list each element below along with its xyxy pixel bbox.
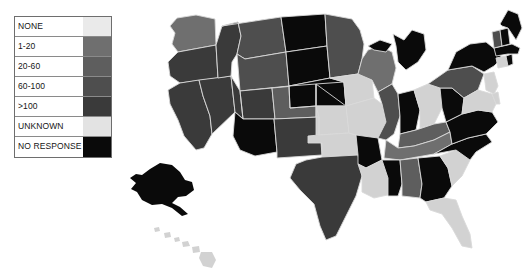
legend-row-none[interactable]: NONE	[15, 17, 111, 37]
state-KS[interactable]	[316, 106, 349, 135]
legend-row-1-20[interactable]: 1-20	[15, 37, 111, 57]
state-OR[interactable]	[168, 45, 218, 83]
state-HI[interactable]	[154, 227, 216, 268]
state-NH[interactable]	[500, 28, 510, 46]
legend-swatch-20-60	[83, 57, 111, 76]
legend-label-over-100: >100	[15, 97, 83, 116]
state-AZ[interactable]	[233, 112, 277, 156]
map-legend: NONE 1-20 20-60 60-100 >100 UNKNOWN NO R…	[14, 16, 112, 158]
state-AK[interactable]	[130, 163, 194, 216]
legend-label-60-100: 60-100	[15, 77, 83, 96]
legend-label-none: NONE	[15, 17, 83, 36]
legend-swatch-unknown	[83, 117, 111, 136]
legend-row-60-100[interactable]: 60-100	[15, 77, 111, 97]
state-NJ[interactable]	[484, 72, 498, 94]
legend-swatch-over-100	[83, 97, 111, 116]
legend-row-over-100[interactable]: >100	[15, 97, 111, 117]
legend-label-unknown: UNKNOWN	[15, 117, 83, 136]
legend-row-no-response[interactable]: NO RESPONSE	[15, 137, 111, 157]
legend-swatch-none	[83, 17, 111, 36]
legend-swatch-no-response	[83, 137, 111, 157]
state-MN[interactable]	[325, 14, 364, 78]
legend-swatch-60-100	[83, 77, 111, 96]
legend-label-1-20: 1-20	[15, 37, 83, 56]
legend-label-20-60: 20-60	[15, 57, 83, 76]
state-ID[interactable]	[216, 22, 241, 78]
states-group	[130, 10, 522, 268]
choropleth-map-figure: NONE 1-20 20-60 60-100 >100 UNKNOWN NO R…	[0, 0, 527, 275]
state-MO[interactable]	[346, 98, 386, 138]
legend-row-20-60[interactable]: 20-60	[15, 57, 111, 77]
legend-label-no-response: NO RESPONSE	[15, 137, 83, 157]
state-FL[interactable]	[426, 198, 472, 248]
state-TX[interactable]	[290, 155, 362, 240]
legend-row-unknown[interactable]: UNKNOWN	[15, 117, 111, 137]
legend-swatch-1-20	[83, 37, 111, 56]
state-ND[interactable]	[281, 14, 327, 52]
